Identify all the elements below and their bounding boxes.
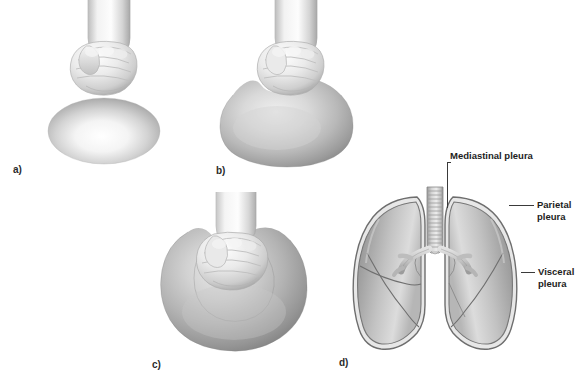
panel-a-illustration xyxy=(0,0,200,185)
fist-a xyxy=(70,41,137,95)
panel-label-c: c) xyxy=(152,360,161,370)
label-parietal-pleura-line-2: pleura xyxy=(537,211,571,223)
label-visceral-pleura: Visceral pleura xyxy=(538,266,574,289)
label-parietal-pleura-line-1: Parietal xyxy=(537,199,571,211)
leader-parietal-pleura xyxy=(509,205,534,206)
leader-mediastinal-pleura xyxy=(447,162,448,208)
fist-c xyxy=(196,232,268,290)
panel-c: c) xyxy=(150,192,325,384)
label-parietal-pleura: Parietal pleura xyxy=(537,199,571,222)
label-mediastinal-pleura-line-1: Mediastinal pleura xyxy=(450,150,533,161)
label-visceral-pleura-line-1: Visceral xyxy=(538,266,574,278)
panel-c-illustration xyxy=(150,192,325,384)
leader-visceral-pleura xyxy=(521,272,535,273)
fist-b xyxy=(257,41,324,95)
panel-b-illustration xyxy=(205,0,370,185)
right-lung xyxy=(353,197,425,349)
panel-label-d: d) xyxy=(339,358,348,368)
panel-label-a: a) xyxy=(13,165,22,175)
panel-label-b: b) xyxy=(216,166,225,176)
forearm-c xyxy=(216,192,256,238)
figure-canvas: a) xyxy=(0,0,587,384)
panel-b: b) xyxy=(205,0,370,185)
balloon-a xyxy=(48,98,160,164)
label-visceral-pleura-line-2: pleura xyxy=(538,278,574,290)
panel-a: a) xyxy=(0,0,200,185)
panel-d-illustration xyxy=(345,183,525,363)
tracheal-cartilage-rings xyxy=(425,191,445,247)
left-lung xyxy=(445,197,517,349)
trachea xyxy=(425,187,445,253)
label-mediastinal-pleura: Mediastinal pleura xyxy=(450,150,533,162)
leader-mediastinal-pleura-elbow xyxy=(447,162,451,163)
